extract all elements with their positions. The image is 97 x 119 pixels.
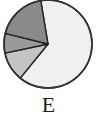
pie-chart bbox=[0, 0, 97, 90]
chart-caption: E bbox=[0, 93, 97, 117]
